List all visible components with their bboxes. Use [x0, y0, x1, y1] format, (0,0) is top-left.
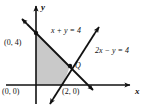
- point-label-0-0: (0, 0): [2, 88, 19, 96]
- line-x-plus-y-equals-4: [22, 19, 27, 24]
- vertex-dot-q: [68, 64, 72, 68]
- equation-label-x-plus-y: x + y = 4: [51, 27, 81, 35]
- intersection-point-label-q: Q: [75, 62, 81, 70]
- shaded-region: [36, 33, 70, 85]
- coordinate-plane-figure: y x (0, 4) (0, 0) (2, 0) x + y = 4 2x − …: [0, 0, 146, 109]
- line-2x-minus-y-equals-4-arrow-up: [95, 27, 99, 33]
- point-label-0-4: (0, 4): [4, 39, 21, 47]
- x-axis-label: x: [135, 87, 140, 96]
- line-2x-minus-y-equals-4-arrow-down: [50, 99, 53, 104]
- y-axis-label: y: [41, 3, 45, 12]
- equation-label-2x-minus-y: 2x − y = 4: [95, 47, 129, 55]
- point-label-2-0: (2, 0): [62, 88, 79, 96]
- vertex-dot-0-4: [34, 31, 38, 35]
